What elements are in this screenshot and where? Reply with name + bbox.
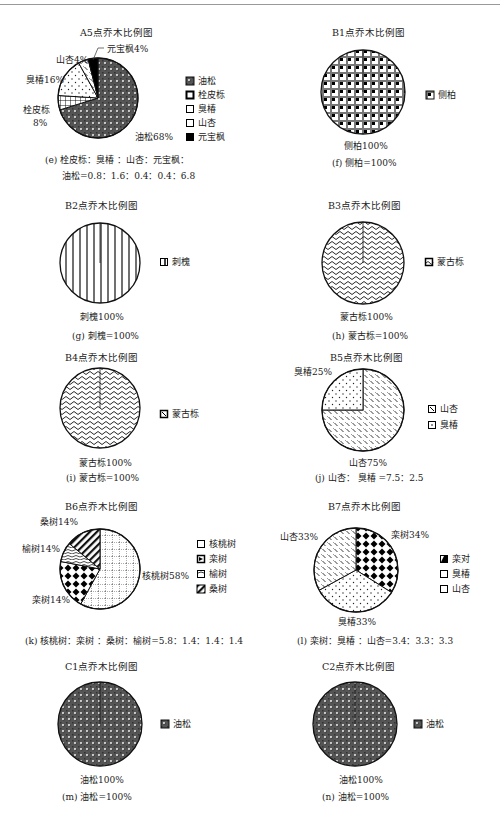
legend-item: 栾对 xyxy=(440,552,470,565)
chart-b2: B2点乔木比例图 刺槐 刺槐100% (g) 刺槐=100% xyxy=(0,190,250,355)
legend-swatch-yousong-icon xyxy=(414,720,422,728)
label-chouchun: 臭椿25% xyxy=(294,367,332,378)
legend-swatch-yu-icon xyxy=(197,570,205,578)
chart-b7: B7点乔木比例图 山杏33% 栾树34% 臭椿33% 栾对 臭椿 山杏 (l) … xyxy=(250,500,500,650)
slice-label: 蒙古栎100% xyxy=(79,458,132,469)
caption-line1: (e) 栓皮栎：臭椿 ：山杏：元宝枫： xyxy=(45,155,189,166)
label-chouchun: 臭椿33% xyxy=(338,617,376,628)
slice-label: 蒙古栎100% xyxy=(340,312,393,323)
legend-item: 蒙古栎 xyxy=(160,407,199,420)
caption: (k) 核桃树：栾树 ：桑树：榆树=5.8：1.4：1.4：1.4 xyxy=(25,636,243,647)
chart-b6: B6点乔木比例图 桑树14% 榆树14% 核桃树58% 栾树14% 核桃树 栾树… xyxy=(0,500,250,650)
legend-item: 油松 xyxy=(161,717,191,730)
legend-item: 桑树 xyxy=(197,582,227,595)
label-shuanpili-2: 8% xyxy=(33,118,47,129)
caption: (n) 油松=100% xyxy=(322,792,389,803)
label-yousong: 油松68% xyxy=(135,132,173,143)
legend-swatch-shanxing-icon xyxy=(440,585,448,593)
chart-c2: C2点乔木比例图 油松 油松100% (n) 油松=100% xyxy=(250,650,500,815)
legend-item: 臭椿 xyxy=(428,418,458,431)
caption: (m) 油松=100% xyxy=(62,792,132,803)
legend-swatch-hetao-icon xyxy=(197,540,205,548)
legend-item: 油松 xyxy=(186,74,216,87)
legend-item: 核桃树 xyxy=(197,537,236,550)
chart-a5: A5点乔木比例图 元宝枫4% 山杏4% 臭椿16% 栓皮栎 8% 油松68% 油… xyxy=(0,0,250,190)
legend-swatch-cebai-icon xyxy=(426,91,434,99)
label-shuanpili-1: 栓皮栎 xyxy=(23,105,50,116)
legend-item: 山杏 xyxy=(440,582,470,595)
legend-item: 侧柏 xyxy=(426,88,456,101)
legend-swatch-sang-icon xyxy=(197,585,205,593)
label-luan: 栾树34% xyxy=(391,530,429,541)
label-shanxing: 山杏33% xyxy=(280,532,318,543)
legend-item: 榆树 xyxy=(197,567,227,580)
legend-item: 臭椿 xyxy=(440,567,470,580)
label-luan: 栾树14% xyxy=(32,595,70,606)
legend-swatch-menggu-icon xyxy=(425,258,433,266)
legend-swatch-chouchun-icon xyxy=(186,105,194,113)
legend-swatch-yuanbaofeng-icon xyxy=(186,133,194,141)
legend-swatch-shanxing-icon xyxy=(186,119,194,127)
legend-item: 刺槐 xyxy=(160,255,190,268)
pie-c2 xyxy=(250,650,500,815)
legend-item: 山杏 xyxy=(428,402,458,415)
legend-item: 蒙古栎 xyxy=(425,255,464,268)
caption: (l) 栾树：臭椿 ：山杏=3.4：3.3：3.3 xyxy=(297,636,453,647)
label-shanxing: 山杏75% xyxy=(349,458,387,469)
label-hetao: 核桃树58% xyxy=(142,571,189,582)
chart-b1: B1点乔木比例图 侧柏 侧柏100% (f) 侧柏=100% xyxy=(250,0,500,190)
caption: (i) 蒙古栎=100% xyxy=(66,473,139,484)
legend-swatch-cihuai-icon xyxy=(160,258,168,266)
legend-item: 栾树 xyxy=(197,552,227,565)
legend-swatch-shuanpili-icon xyxy=(186,91,194,99)
caption: (f) 侧柏=100% xyxy=(332,158,397,169)
legend-swatch-luan-icon xyxy=(197,555,205,563)
label-yu: 榆树14% xyxy=(22,544,60,555)
label-sang: 桑树14% xyxy=(40,517,78,528)
caption-line2: 油松=0.8：1.6：0.4：0.4：6.8 xyxy=(62,171,195,182)
slice-label: 油松100% xyxy=(339,775,383,786)
caption: (h) 蒙古栎=100% xyxy=(332,331,408,342)
legend-swatch-yousong-icon xyxy=(161,720,169,728)
label-yuanbaofeng: 元宝枫4% xyxy=(107,44,148,55)
chart-c1: C1点乔木比例图 油松 油松100% (m) 油松=100% xyxy=(0,650,250,815)
slice-label: 刺槐100% xyxy=(80,312,124,323)
legend-item: 山杏 xyxy=(186,116,216,129)
legend-item: 元宝枫 xyxy=(186,130,225,143)
caption: (j) 山杏： 臭椿 =7.5：2.5 xyxy=(315,473,424,484)
legend-swatch-luan-icon xyxy=(440,555,448,563)
legend-swatch-yousong-icon xyxy=(186,77,194,85)
slice-label: 油松100% xyxy=(80,775,124,786)
label-chouchun: 臭椿16% xyxy=(26,75,64,86)
slice-label: 侧柏100% xyxy=(344,141,388,152)
chart-b4: B4点乔木比例图 蒙古栎 蒙古栎100% (i) 蒙古栎=100% xyxy=(0,350,250,500)
legend-swatch-menggu-icon xyxy=(160,410,168,418)
pie-c1 xyxy=(0,650,250,815)
legend-swatch-chouchun-icon xyxy=(428,421,436,429)
legend-item: 栓皮栎 xyxy=(186,88,225,101)
chart-b3: B3点乔木比例图 蒙古栎 蒙古栎100% (h) 蒙古栎=100% xyxy=(250,190,500,355)
caption: (g) 刺槐=100% xyxy=(72,331,139,342)
label-shanxing: 山杏4% xyxy=(56,55,88,66)
legend-item: 臭椿 xyxy=(186,102,216,115)
chart-b5: B5点乔木比例图 臭椿25% 山杏 臭椿 山杏75% (j) 山杏： 臭椿 =7… xyxy=(250,350,500,500)
legend-item: 油松 xyxy=(414,717,444,730)
legend-swatch-shanxing-icon xyxy=(428,405,436,413)
legend-swatch-chouchun-icon xyxy=(440,570,448,578)
